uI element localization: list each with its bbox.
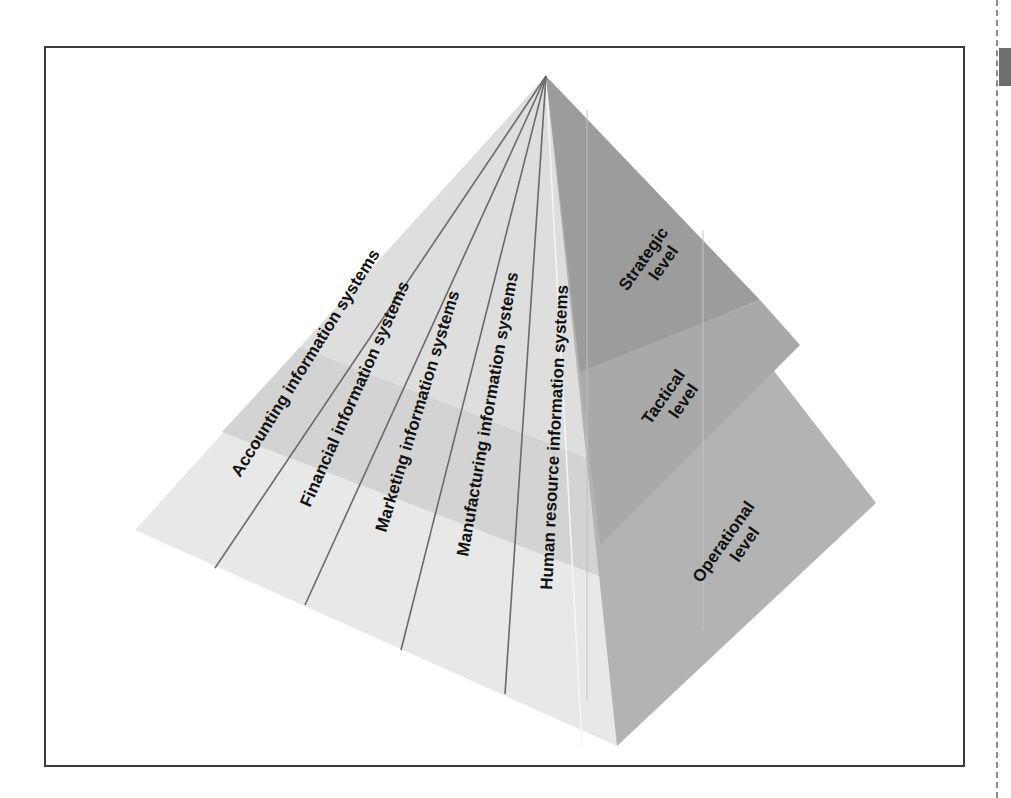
pyramid-diagram: Accounting information systems Financial… xyxy=(0,0,1011,798)
left-face xyxy=(135,76,617,746)
